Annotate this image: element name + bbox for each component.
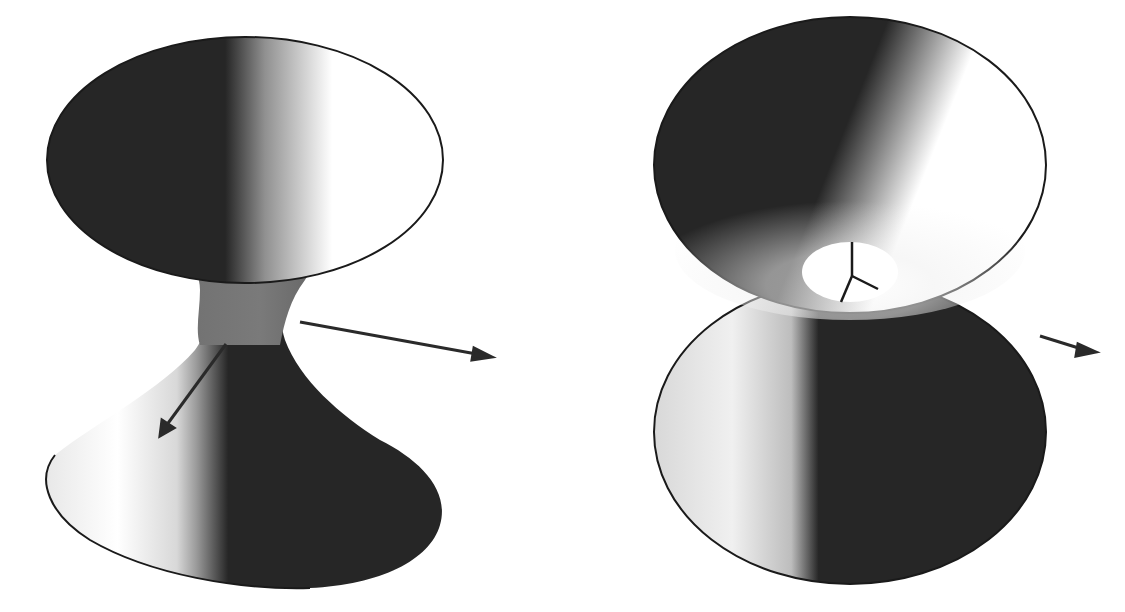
hyperboloid-left-svg xyxy=(0,0,560,612)
axis-arrow-right xyxy=(300,322,492,360)
throat-opening xyxy=(802,242,898,302)
hyperboloid-figure-left xyxy=(0,0,560,612)
upper-rim xyxy=(47,37,443,283)
hyperboloid-right-svg xyxy=(560,0,1125,612)
lower-sheet xyxy=(654,280,1046,584)
hyperboloid-figure-right xyxy=(560,0,1125,612)
axis-arrow-right xyxy=(1040,336,1096,356)
